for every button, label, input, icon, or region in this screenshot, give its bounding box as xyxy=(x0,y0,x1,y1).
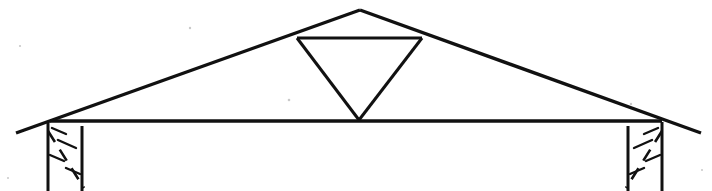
drawing-background xyxy=(0,0,712,191)
roof-truss-diagram xyxy=(0,0,712,191)
paper-speck xyxy=(7,177,9,179)
paper-speck xyxy=(19,45,21,47)
paper-speck xyxy=(288,99,291,102)
paper-speck xyxy=(630,103,632,105)
drawing-canvas xyxy=(0,0,712,191)
paper-speck xyxy=(701,169,703,171)
paper-speck xyxy=(189,27,191,29)
